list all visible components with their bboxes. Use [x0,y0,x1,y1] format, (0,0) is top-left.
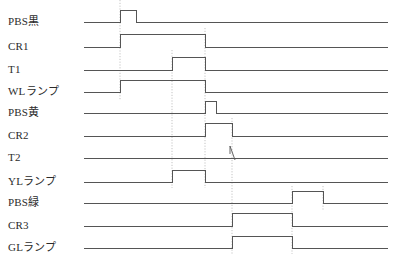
waveform-T1 [84,57,388,70]
waveform-PBS黒 [84,10,388,22]
waveform-GLランプ [84,236,388,248]
waveform-canvas [0,0,408,261]
guide-lines-group [120,0,323,254]
waveform-WLランプ [84,80,388,92]
waveform-YLランプ [84,170,388,182]
waveform-CR1 [84,34,388,47]
waveform-paths-group [84,10,388,248]
waveform-CR3 [84,213,388,226]
waveform-PBS黄 [84,101,388,113]
waveform-CR2 [84,123,388,136]
timing-diagram: PBS黒 CR1 T1 WLランプ PBS黄 CR2 T2 YLランプ PBS緑… [0,0,408,261]
waveform-PBS緑 [84,191,388,203]
